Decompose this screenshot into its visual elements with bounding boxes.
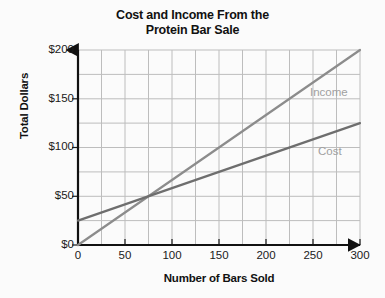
series-label-income: Income xyxy=(310,86,348,98)
y-tick-label-100: $100 xyxy=(8,140,74,152)
x-tick-label-50: 50 xyxy=(105,249,145,261)
series-label-cost: Cost xyxy=(318,145,342,157)
y-tick-label-200: $200 xyxy=(8,43,74,55)
y-tick-label-50: $50 xyxy=(8,189,74,201)
x-tick-label-150: 150 xyxy=(199,249,239,261)
x-tick-label-300: 300 xyxy=(340,249,380,261)
y-tick-label-150: $150 xyxy=(8,92,74,104)
chart-figure: Cost and Income From the Protein Bar Sal… xyxy=(0,0,385,298)
x-tick-label-0: 0 xyxy=(58,249,98,261)
x-tick-label-200: 200 xyxy=(246,249,286,261)
x-tick-label-250: 250 xyxy=(293,249,333,261)
x-tick-label-100: 100 xyxy=(152,249,192,261)
